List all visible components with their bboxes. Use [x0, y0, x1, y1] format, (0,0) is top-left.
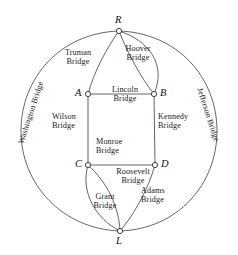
label-grant-bridge: Grant Bridge: [83, 192, 127, 211]
vertex-C[interactable]: [85, 162, 90, 167]
vertex-label-R: R: [115, 14, 121, 25]
label-grant-bridge-line2: Bridge: [83, 201, 127, 210]
label-lincoln-bridge-line1: Lincoln: [103, 85, 147, 94]
label-roosevelt-bridge: Roosevelt Bridge: [108, 167, 158, 186]
label-truman-bridge: Truman Bridge: [56, 48, 100, 67]
label-wilson-bridge-line1: Wilson: [52, 112, 96, 121]
vertex-label-B: B: [160, 87, 166, 98]
vertex-A[interactable]: [85, 91, 90, 96]
label-lincoln-bridge: Lincoln Bridge: [103, 85, 147, 104]
vertex-B[interactable]: [151, 91, 156, 96]
label-truman-bridge-line2: Bridge: [56, 57, 100, 66]
label-adams-bridge-line1: Adams: [141, 186, 185, 195]
vertex-L[interactable]: [117, 228, 122, 233]
label-adams-bridge: Adams Bridge: [141, 186, 185, 205]
label-kennedy-bridge-line1: Kennedy: [158, 112, 206, 121]
label-kennedy-bridge: Kennedy Bridge: [158, 112, 206, 131]
label-lincoln-bridge-line2: Bridge: [103, 94, 147, 103]
label-hoover-bridge-line2: Bridge: [116, 53, 160, 62]
vertex-label-C: C: [75, 158, 82, 169]
label-roosevelt-bridge-line1: Roosevelt: [108, 167, 158, 176]
label-monroe-bridge: Monroe Bridge: [96, 137, 142, 156]
edge-kennedy-bridge: [154, 94, 155, 165]
vertex-label-D: D: [161, 158, 169, 169]
vertex-label-L: L: [116, 235, 122, 246]
label-kennedy-bridge-line2: Bridge: [158, 121, 206, 130]
label-roosevelt-bridge-line2: Bridge: [108, 176, 158, 185]
bridges-diagram: R A B C D L Washington Bridge Jefferson …: [0, 0, 238, 255]
label-hoover-bridge-line1: Hoover: [116, 44, 160, 53]
vertex-R[interactable]: [116, 28, 121, 33]
vertex-label-A: A: [75, 87, 81, 98]
label-grant-bridge-line1: Grant: [83, 192, 127, 201]
label-wilson-bridge-line2: Bridge: [52, 121, 96, 130]
label-hoover-bridge: Hoover Bridge: [116, 44, 160, 63]
label-truman-bridge-line1: Truman: [56, 48, 100, 57]
label-wilson-bridge: Wilson Bridge: [52, 112, 96, 131]
label-monroe-bridge-line1: Monroe: [96, 137, 142, 146]
label-adams-bridge-line2: Bridge: [141, 195, 185, 204]
label-monroe-bridge-line2: Bridge: [96, 146, 142, 155]
